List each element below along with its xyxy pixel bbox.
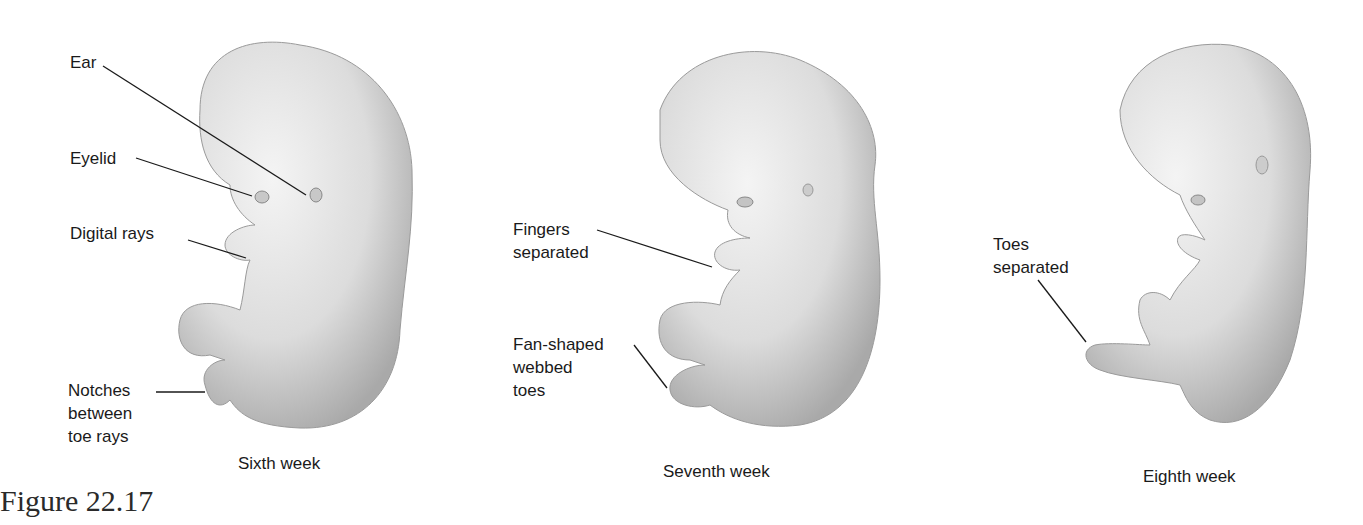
embryo-illustrations — [0, 0, 1363, 525]
caption-eighth-week: Eighth week — [1143, 467, 1236, 487]
label-fingers-separated: Fingers separated — [513, 218, 589, 264]
label-fan-shaped-webbed-toes: Fan-shaped webbed toes — [513, 333, 604, 402]
caption-seventh-week: Seventh week — [663, 462, 770, 482]
label-notches-between-toe-rays: Notches between toe rays — [68, 379, 132, 448]
label-eyelid: Eyelid — [70, 147, 116, 170]
label-toes-separated: Toes separated — [993, 233, 1069, 279]
caption-sixth-week: Sixth week — [238, 454, 320, 474]
label-ear: Ear — [70, 51, 96, 74]
label-digital-rays: Digital rays — [70, 222, 154, 245]
embryo-seventh-week — [597, 52, 880, 427]
embryo-eighth-week — [1038, 44, 1311, 422]
figure-number: Figure 22.17 — [0, 484, 153, 518]
